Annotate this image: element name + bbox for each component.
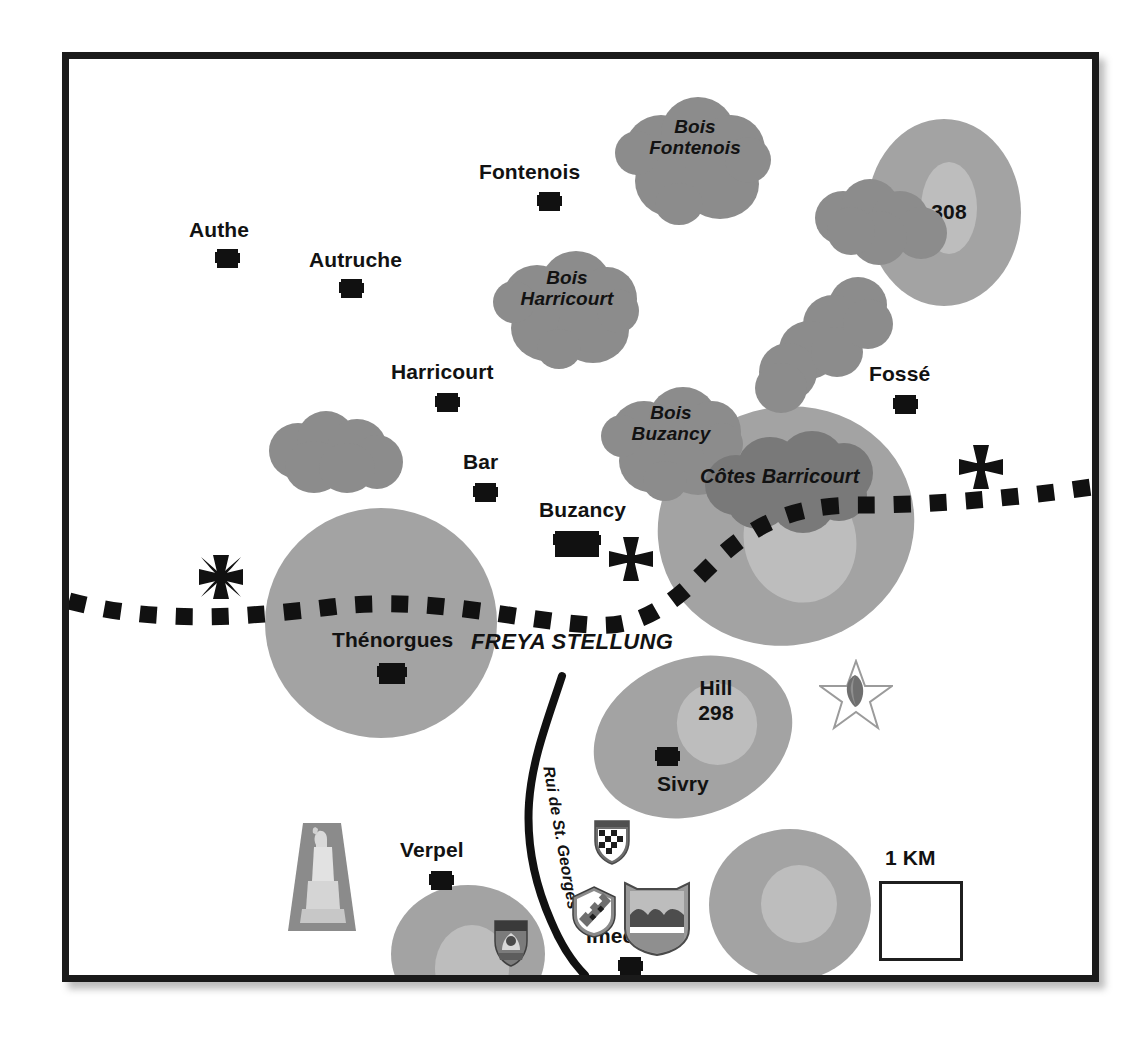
regiment-insignia-sivry xyxy=(587,815,637,867)
regiment-insignia-center xyxy=(569,885,619,939)
town-marker-sivry xyxy=(657,747,678,766)
town-marker-bar xyxy=(475,483,496,502)
town-marker-fontenois xyxy=(539,192,560,211)
iron-cross-center xyxy=(609,537,653,581)
scale-box xyxy=(879,881,963,961)
town-label-authe: Authe xyxy=(189,219,249,241)
town-marker-authe xyxy=(217,249,238,268)
town-marker-thenorgues xyxy=(379,663,405,684)
town-marker-verpel xyxy=(431,871,452,890)
monument-photo xyxy=(284,821,360,935)
town-marker-harricourt xyxy=(437,393,458,412)
iron-cross-east xyxy=(959,445,1003,489)
town-marker-fosse xyxy=(895,395,916,414)
map-page: 308 Hill 298 Bois Fontenois xyxy=(0,0,1141,1055)
town-label-fosse: Fossé xyxy=(869,363,930,385)
town-label-fontenois: Fontenois xyxy=(479,161,580,183)
town-label-buzancy: Buzancy xyxy=(539,499,626,521)
map-canvas: 308 Hill 298 Bois Fontenois xyxy=(69,59,1092,975)
division-star-insignia xyxy=(819,659,893,731)
town-marker-buzancy xyxy=(555,531,599,557)
town-label-bar: Bar xyxy=(463,451,498,473)
town-label-sivry: Sivry xyxy=(657,773,709,795)
town-label-thenorgues: Thénorgues xyxy=(332,629,453,651)
town-marker-autruche xyxy=(341,279,362,298)
town-label-verpel: Verpel xyxy=(400,839,464,861)
regiment-insignia-imecourt xyxy=(621,879,693,957)
town-label-autruche: Autruche xyxy=(309,249,402,271)
town-marker-imecourt xyxy=(620,957,641,976)
freya-stellung-label: FREYA STELLUNG xyxy=(471,631,673,654)
scale-label: 1 KM xyxy=(885,847,936,869)
regiment-insignia-verpel xyxy=(489,917,533,969)
town-label-harricourt: Harricourt xyxy=(391,361,494,383)
iron-cross-west xyxy=(199,555,243,599)
map-frame: 308 Hill 298 Bois Fontenois xyxy=(62,52,1099,982)
